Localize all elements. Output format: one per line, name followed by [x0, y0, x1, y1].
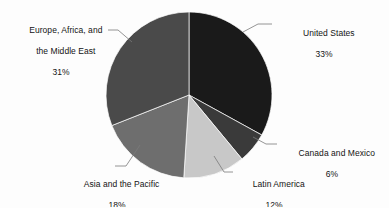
slice-label-latin-america: Latin America 12%: [232, 168, 316, 207]
slice-percent-latin: 12%: [232, 200, 316, 208]
slice-percent-europe: 31%: [5, 67, 117, 78]
pie-slices: [106, 12, 272, 178]
slice-label-latin-line1: Latin America: [253, 179, 305, 189]
pie-chart-figure: Europe, Africa, and the Middle East 31% …: [0, 0, 389, 207]
slice-label-united-states-line1: United States: [303, 28, 355, 38]
slice-label-asia-line1: Asia and the Pacific: [84, 179, 160, 189]
slice-label-asia-and-the-pacific: Asia and the Pacific 18%: [62, 168, 172, 207]
slice-percent-united-states: 33%: [272, 49, 376, 60]
slice-percent-asia: 18%: [62, 200, 172, 208]
slice-label-canada-line1: Canada and Mexico: [299, 148, 375, 158]
slice-label-united-states: United States 33%: [272, 17, 376, 80]
slice-label-europe-line2: the Middle East: [36, 46, 95, 56]
slice-label-europe-line1: Europe, Africa, and: [29, 25, 102, 35]
leader-line-united-states: [243, 24, 272, 32]
slice-label-europe-africa-middle-east: Europe, Africa, and the Middle East 31%: [5, 14, 117, 98]
